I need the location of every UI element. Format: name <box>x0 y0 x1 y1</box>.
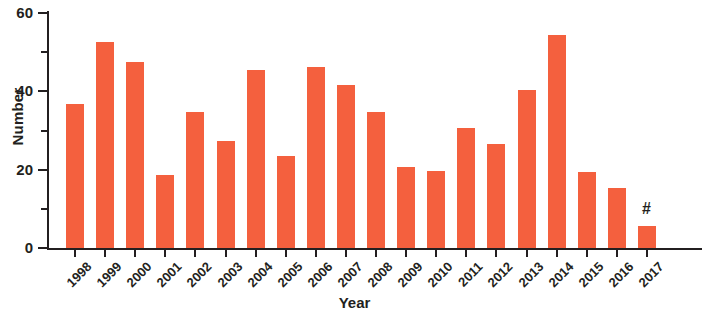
x-axis-tick <box>164 250 166 257</box>
y-axis-tick-major <box>38 169 47 171</box>
bar-chart: Number 0204060 1998199920002001200220032… <box>0 0 709 316</box>
x-axis-tick <box>134 250 136 257</box>
bar <box>608 188 626 248</box>
bar <box>277 156 295 248</box>
x-axis-tick <box>526 250 528 257</box>
x-axis-tick <box>194 250 196 257</box>
x-axis-tick <box>255 250 257 257</box>
bar <box>96 42 114 248</box>
x-axis-tick <box>345 250 347 257</box>
y-axis-tick-major <box>38 90 47 92</box>
x-axis-tick <box>616 250 618 257</box>
bar <box>307 67 325 248</box>
bar <box>186 112 204 248</box>
x-axis-tick <box>405 250 407 257</box>
bar <box>427 171 445 248</box>
y-axis-tick-minor <box>41 130 47 132</box>
bar <box>337 85 355 248</box>
x-axis-tick <box>285 250 287 257</box>
bar <box>247 70 265 248</box>
bar <box>578 172 596 248</box>
x-axis-tick <box>225 250 227 257</box>
bar <box>487 144 505 248</box>
x-axis-tick <box>556 250 558 257</box>
x-axis-tick <box>646 250 648 257</box>
x-axis-tick <box>74 250 76 257</box>
y-axis-tick-minor <box>41 208 47 210</box>
hash-annotation: # <box>642 200 651 218</box>
x-axis-tick <box>465 250 467 257</box>
x-axis-tick <box>375 250 377 257</box>
bar <box>66 104 84 248</box>
y-axis-tick-label: 20 <box>0 161 33 178</box>
y-axis-tick-label: 40 <box>0 82 33 99</box>
x-axis-tick <box>495 250 497 257</box>
y-axis-tick-label: 60 <box>0 4 33 21</box>
y-axis-line <box>47 11 49 250</box>
x-axis-title: Year <box>0 294 709 311</box>
bar <box>518 90 536 248</box>
bar <box>397 167 415 248</box>
y-axis-tick-minor <box>41 51 47 53</box>
y-axis-tick-major <box>38 247 47 249</box>
x-axis-tick <box>104 250 106 257</box>
bar <box>156 175 174 248</box>
x-axis-tick <box>315 250 317 257</box>
y-axis-tick-major <box>38 12 47 14</box>
x-axis-tick <box>435 250 437 257</box>
bar <box>638 226 656 248</box>
bar <box>126 62 144 248</box>
bar <box>367 112 385 248</box>
bar <box>548 35 566 248</box>
x-axis-tick <box>586 250 588 257</box>
bar <box>457 128 475 248</box>
y-axis-tick-label: 0 <box>0 239 33 256</box>
bar <box>217 141 235 248</box>
